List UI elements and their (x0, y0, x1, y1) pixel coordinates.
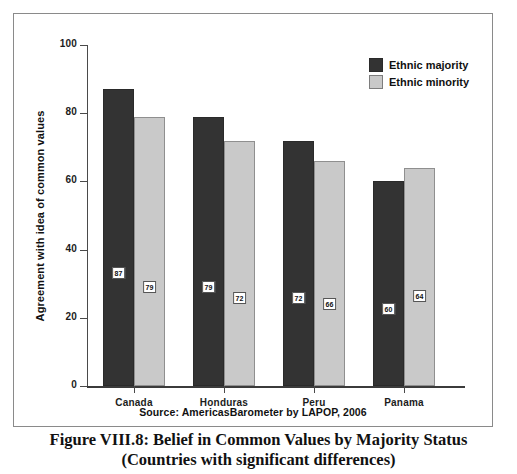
figure-frame: Agreement with idea of common values 100… (13, 13, 493, 427)
x-tick-panama (404, 386, 405, 393)
bar-value-panama-minority: 64 (413, 290, 427, 302)
legend-label-minority: Ethnic minority (389, 76, 469, 88)
y-tick-label-80: 80 (65, 106, 77, 117)
y-tick-label-0: 0 (71, 379, 77, 390)
caption-line-2: (Countries with significant differences) (0, 450, 517, 470)
y-tick-80: 80 (80, 113, 87, 114)
bar-peru-minority[interactable]: 66 (314, 161, 345, 386)
bar-value-canada-majority: 87 (112, 267, 126, 279)
y-tick-label-100: 100 (60, 38, 77, 49)
bar-value-peru-minority: 66 (323, 298, 337, 310)
y-axis-line (87, 45, 88, 386)
bar-value-honduras-minority: 72 (233, 292, 247, 304)
bar-canada-majority[interactable]: 87 (103, 89, 134, 386)
y-axis-title: Agreement with idea of common values (32, 45, 48, 386)
x-tick-peru (314, 386, 315, 393)
y-tick-label-60: 60 (65, 174, 77, 185)
plot-area: 100 80 60 40 20 0 Canada Honduras Peru P… (87, 45, 493, 404)
y-tick-0: 0 (80, 386, 87, 387)
bar-value-panama-majority: 60 (382, 303, 396, 315)
bar-honduras-majority[interactable]: 79 (193, 117, 224, 386)
bar-panama-majority[interactable]: 60 (373, 181, 404, 386)
x-tick-canada (134, 386, 135, 393)
bar-value-honduras-majority: 79 (202, 281, 216, 293)
bar-canada-minority[interactable]: 79 (134, 117, 165, 386)
y-tick-20: 20 (80, 318, 87, 319)
y-tick-60: 60 (80, 181, 87, 182)
y-axis-title-text: Agreement with idea of common values (34, 110, 46, 321)
y-tick-label-40: 40 (65, 243, 77, 254)
legend: Ethnic majority Ethnic minority (369, 56, 469, 90)
legend-item-majority[interactable]: Ethnic majority (369, 56, 469, 73)
bar-value-canada-minority: 79 (143, 281, 157, 293)
light-swatch-icon (369, 75, 383, 89)
y-tick-100: 100 (80, 45, 87, 46)
x-tick-honduras (224, 386, 225, 393)
source-note: Source: AmericasBarometer by LAPOP, 2006 (14, 406, 492, 418)
bar-panama-minority[interactable]: 64 (404, 168, 435, 386)
dark-swatch-icon (369, 58, 383, 72)
caption-line-1: Figure VIII.8: Belief in Common Values b… (0, 430, 517, 450)
y-tick-label-20: 20 (65, 311, 77, 322)
figure-caption: Figure VIII.8: Belief in Common Values b… (0, 430, 517, 470)
bar-peru-majority[interactable]: 72 (283, 141, 314, 387)
x-axis-line (87, 386, 465, 388)
legend-item-minority[interactable]: Ethnic minority (369, 73, 469, 90)
y-tick-40: 40 (80, 250, 87, 251)
bar-value-peru-majority: 72 (292, 292, 306, 304)
legend-label-majority: Ethnic majority (389, 59, 468, 71)
bar-honduras-minority[interactable]: 72 (224, 141, 255, 387)
